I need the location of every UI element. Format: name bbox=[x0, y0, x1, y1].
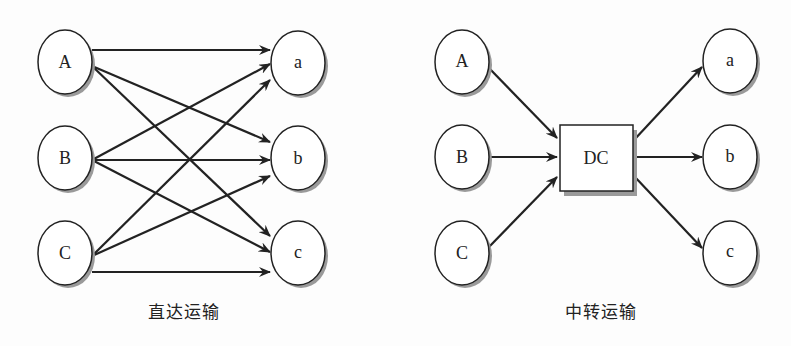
node-b: b bbox=[271, 126, 328, 193]
edges bbox=[92, 50, 270, 272]
node-label: b bbox=[726, 146, 735, 166]
node-a: a bbox=[703, 29, 760, 96]
node-A: A bbox=[38, 30, 95, 97]
node-a: a bbox=[271, 31, 328, 98]
node-label: a bbox=[294, 52, 302, 72]
node-label: DC bbox=[583, 148, 608, 168]
edge-C-b bbox=[92, 176, 270, 256]
node-dc: DC bbox=[560, 125, 637, 196]
node-c: c bbox=[703, 221, 760, 288]
node-label: a bbox=[726, 50, 734, 70]
transport-diagrams: A B C a b c bbox=[0, 0, 791, 346]
caption-direct-shipping: 直达运输 bbox=[148, 298, 220, 323]
edge-B-c bbox=[92, 160, 270, 252]
edge-A-DC bbox=[488, 67, 557, 138]
edge-C-a bbox=[92, 80, 270, 256]
direct-shipping-diagram: A B C a b c bbox=[38, 30, 328, 288]
node-b: b bbox=[703, 125, 760, 192]
node-label: b bbox=[294, 148, 303, 168]
node-A: A bbox=[435, 30, 492, 97]
caption-hub-shipping: 中转运输 bbox=[565, 298, 637, 323]
node-label: B bbox=[59, 148, 71, 168]
node-label: A bbox=[59, 52, 72, 72]
node-C: C bbox=[38, 221, 95, 288]
node-B: B bbox=[435, 125, 492, 192]
edge-A-c bbox=[92, 66, 270, 236]
node-B: B bbox=[38, 126, 95, 193]
node-label: C bbox=[59, 243, 71, 263]
edge-DC-a bbox=[634, 67, 702, 140]
node-C: C bbox=[435, 221, 492, 288]
node-label: A bbox=[456, 51, 469, 71]
node-label: C bbox=[456, 243, 468, 263]
edge-C-DC bbox=[488, 177, 557, 248]
hub-shipping-diagram: DC A B C a b bbox=[435, 29, 760, 288]
node-label: c bbox=[294, 242, 302, 262]
node-label: B bbox=[456, 147, 468, 167]
node-label: c bbox=[726, 241, 734, 261]
node-c: c bbox=[271, 221, 328, 288]
edge-DC-c bbox=[634, 176, 702, 248]
